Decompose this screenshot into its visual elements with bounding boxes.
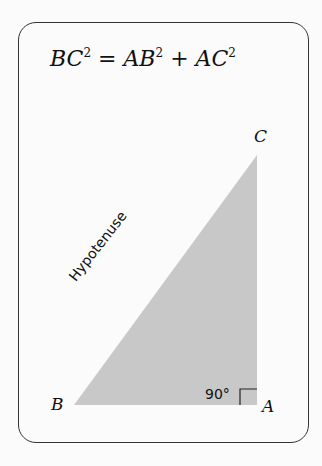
vertex-a-label: A [262, 396, 274, 416]
vertex-b-label: B [51, 394, 64, 414]
vertex-c-label: C [254, 126, 267, 146]
triangle-shape [74, 155, 257, 405]
angle-label: 90° [205, 386, 230, 402]
